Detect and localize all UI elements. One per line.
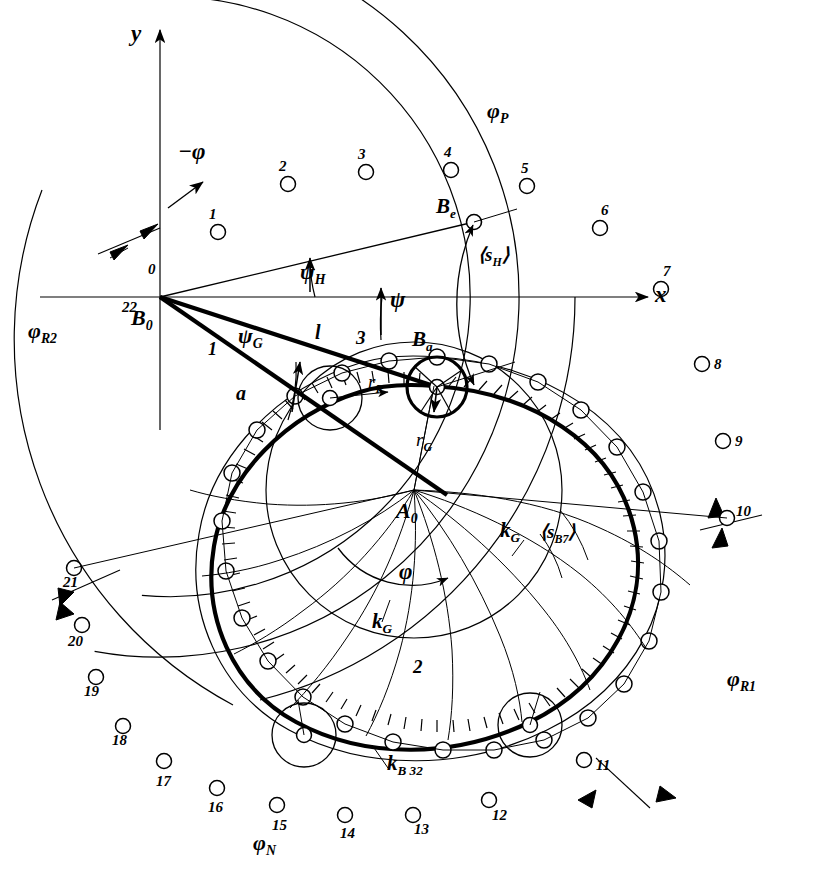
- label-psi: ψ: [390, 288, 405, 311]
- position-pin-17: [157, 754, 172, 769]
- position-label-9: 9: [735, 434, 743, 449]
- position-label-6: 6: [601, 203, 609, 218]
- label-kB32: kB 32: [387, 753, 423, 777]
- position-pin-1: [211, 225, 226, 240]
- position-label-3: 3: [358, 147, 366, 162]
- label-phi-rotation: φ: [399, 560, 412, 583]
- position-label-7: 7: [663, 264, 671, 279]
- label-kG-bottom: kG: [372, 611, 392, 635]
- arc-phi-R2: [14, 190, 233, 705]
- label-psi-G: ψG: [238, 325, 263, 351]
- cam-radial-rays: [74, 386, 727, 568]
- label-a: a: [236, 383, 246, 403]
- position-label-17: 17: [156, 774, 171, 789]
- position-pin-3: [359, 165, 374, 180]
- roller-bottom-right: [498, 692, 562, 757]
- label-sB7: ⟨sB7⟩: [540, 522, 575, 546]
- label-link-3: 3: [356, 328, 366, 347]
- position-label-8: 8: [714, 357, 722, 372]
- label-phi-P: φP: [487, 100, 508, 126]
- link-1-coupler: [160, 297, 447, 495]
- position-label-4: 4: [444, 145, 452, 160]
- position-label-12: 12: [492, 808, 507, 823]
- position-pin-14: [338, 808, 353, 823]
- label-Ba: Ba: [412, 329, 433, 353]
- position-pin-20: [75, 618, 90, 633]
- label-phi-R1: φR1: [727, 668, 756, 694]
- arrow-minus-phi: [168, 182, 203, 208]
- position-label-18: 18: [112, 733, 127, 748]
- axis-y-label: y: [131, 22, 141, 45]
- position-label-16: 16: [208, 800, 223, 815]
- angle-psi: [380, 288, 382, 340]
- position-label-10: 10: [736, 504, 751, 519]
- position-pin-5: [520, 179, 535, 194]
- label-minus-phi: −φ: [178, 140, 205, 163]
- position-label-19: 19: [84, 684, 99, 699]
- label-Be: Be: [436, 196, 456, 220]
- label-rG: rG: [416, 430, 432, 454]
- label-A0: A0: [396, 500, 418, 526]
- label-psi-H: ψH: [300, 261, 325, 287]
- cam-profile-hatching: [222, 371, 644, 732]
- position-label-2: 2: [279, 159, 287, 174]
- label-l: l: [315, 322, 321, 342]
- position-pin-11: [577, 753, 592, 768]
- position-label-0: 0: [148, 262, 156, 277]
- position-pin-8: [695, 357, 710, 372]
- position-pin-9: [716, 434, 731, 449]
- position-label-11: 11: [596, 758, 610, 773]
- arc-phi-P: [95, 0, 519, 657]
- position-label-15: 15: [272, 818, 287, 833]
- position-pin-12: [482, 793, 497, 808]
- label-sH: ⟨sH⟩: [478, 245, 509, 269]
- position-label-22: 22: [122, 300, 137, 315]
- label-link-2: 2: [413, 657, 423, 676]
- position-label-21: 21: [63, 575, 78, 590]
- position-pin-15: [270, 798, 285, 813]
- label-kG-right: kG: [500, 520, 520, 544]
- position-pin-4: [444, 163, 459, 178]
- position-label-14: 14: [340, 826, 355, 841]
- label-phi-R2: φR2: [28, 320, 57, 346]
- position-label-1: 1: [209, 207, 217, 222]
- roller-centre-pin-group: [214, 349, 669, 758]
- position-pin-16: [210, 781, 225, 796]
- diagram-canvas: y x B0 A0 Ba Be −φ φ ψH ψ ψG φP φN φR1 φ…: [0, 0, 815, 892]
- label-rR: rR: [368, 372, 383, 396]
- position-label-13: 13: [414, 822, 429, 837]
- label-link-1: 1: [208, 340, 217, 358]
- position-label-20: 20: [68, 634, 83, 649]
- position-label-5: 5: [521, 161, 529, 176]
- position-pin-6: [593, 221, 608, 236]
- label-phi-N: φN: [253, 832, 276, 858]
- axis-x-label: x: [655, 283, 667, 306]
- position-pin-2: [281, 177, 296, 192]
